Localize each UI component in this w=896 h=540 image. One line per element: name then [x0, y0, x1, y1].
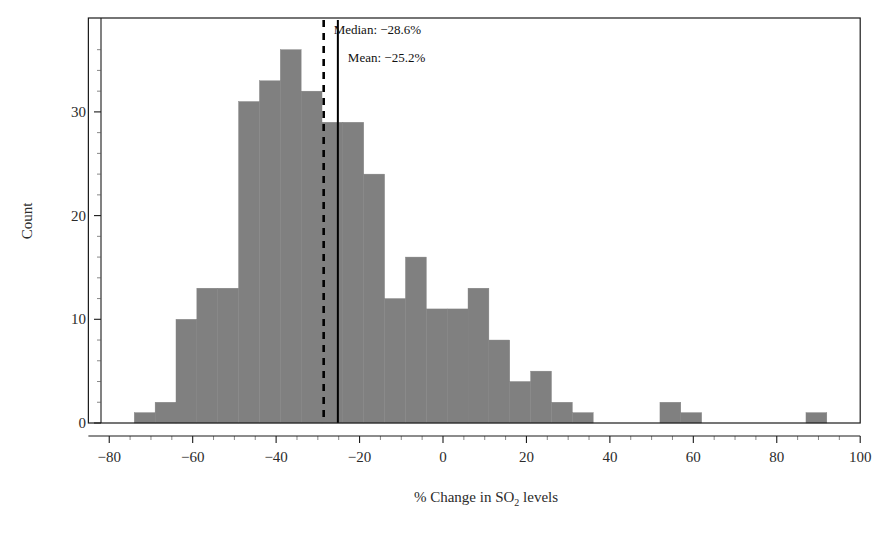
histogram-bar — [322, 122, 343, 423]
histogram-bar — [531, 371, 552, 423]
mean-annotation-label: Mean: −25.2% — [348, 50, 426, 65]
histogram-bar — [364, 174, 385, 423]
x-axis-tick-label: 60 — [686, 449, 701, 465]
histogram-bar — [468, 288, 489, 423]
y-axis-label: Count — [19, 202, 35, 240]
histogram-bar — [176, 319, 197, 423]
histogram-bar — [197, 288, 218, 423]
histogram-bar — [155, 402, 176, 423]
figure-background — [0, 0, 896, 540]
histogram-bar — [426, 309, 447, 423]
x-axis-tick-label: 100 — [849, 449, 872, 465]
x-axis-label-pre: % Change in SO — [414, 489, 515, 505]
x-axis-tick-label: 0 — [439, 449, 447, 465]
x-axis-tick-label: 20 — [519, 449, 534, 465]
histogram-bar — [551, 402, 572, 423]
histogram-bar — [405, 257, 426, 423]
histogram-bar — [447, 309, 468, 423]
histogram-chart: −80−60−40−20020406080100 0102030 Median:… — [0, 0, 896, 540]
y-axis-tick-label: 10 — [71, 311, 86, 327]
histogram-bar — [218, 288, 239, 423]
histogram-bar — [280, 50, 301, 423]
histogram-bar — [385, 299, 406, 423]
x-axis-label-post: levels — [519, 489, 558, 505]
x-axis-tick-label: 40 — [602, 449, 617, 465]
y-axis-tick-label: 30 — [71, 104, 86, 120]
histogram-figure: −80−60−40−20020406080100 0102030 Median:… — [0, 0, 896, 540]
x-axis-tick-label: 80 — [769, 449, 784, 465]
x-axis-tick-label: −20 — [348, 449, 371, 465]
histogram-bar — [239, 102, 260, 423]
histogram-bar — [343, 122, 364, 423]
x-axis-tick-label: −80 — [98, 449, 121, 465]
histogram-bar — [259, 81, 280, 423]
histogram-bar — [301, 91, 322, 423]
median-annotation-label: Median: −28.6% — [334, 22, 422, 37]
histogram-bar — [806, 413, 827, 423]
y-axis-tick-label: 0 — [79, 415, 87, 431]
x-axis-tick-label: −60 — [181, 449, 204, 465]
histogram-bar — [681, 413, 702, 423]
histogram-bar — [134, 413, 155, 423]
histogram-bar — [510, 382, 531, 423]
histogram-bar — [660, 402, 681, 423]
y-axis-tick-label: 20 — [71, 208, 86, 224]
histogram-bar — [489, 340, 510, 423]
histogram-bar — [572, 413, 593, 423]
x-axis-tick-label: −40 — [264, 449, 287, 465]
